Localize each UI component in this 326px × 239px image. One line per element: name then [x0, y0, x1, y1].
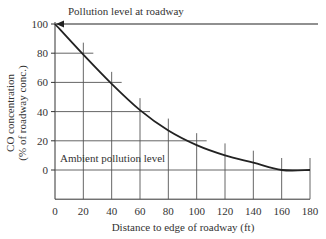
- y-axis-label-line1: CO concentration: [4, 74, 16, 152]
- y-tick-label: 100: [32, 18, 49, 30]
- y-tick-labels: 020406080100: [32, 18, 49, 176]
- co-concentration-curve: [55, 24, 310, 171]
- x-tick-label: 160: [273, 205, 290, 217]
- y-tick-label: 40: [37, 106, 49, 118]
- x-tick-label: 180: [302, 205, 319, 217]
- x-tick-label: 140: [245, 205, 262, 217]
- x-tick-label: 20: [78, 205, 90, 217]
- axes: [51, 22, 310, 199]
- y-tick-label: 60: [37, 76, 49, 88]
- y-tick-label: 0: [43, 164, 49, 176]
- roadway-level-label: Pollution level at roadway: [68, 5, 184, 17]
- x-tick-label: 120: [217, 205, 234, 217]
- x-tick-labels: 020406080100120140160180: [52, 205, 319, 217]
- y-tick-label: 80: [37, 47, 49, 59]
- ambient-level-label: Ambient pollution level: [60, 152, 165, 164]
- x-tick-label: 40: [106, 205, 118, 217]
- chart: 020406080100120140160180 020406080100 Po…: [0, 0, 326, 239]
- x-tick-label: 80: [163, 205, 175, 217]
- x-tick-label: 0: [52, 205, 58, 217]
- x-tick-label: 60: [135, 205, 147, 217]
- x-tick-label: 100: [188, 205, 205, 217]
- y-axis-label-line2: (% of roadway conc.): [16, 65, 29, 161]
- y-tick-label: 20: [37, 135, 49, 147]
- x-axis-label: Distance to edge of roadway (ft): [112, 221, 255, 234]
